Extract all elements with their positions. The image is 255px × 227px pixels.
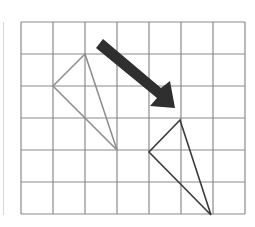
square-grid [21,22,245,214]
translation-diagram [0,0,255,227]
translation-arrow-icon [96,39,175,108]
translated-triangle [149,120,211,215]
